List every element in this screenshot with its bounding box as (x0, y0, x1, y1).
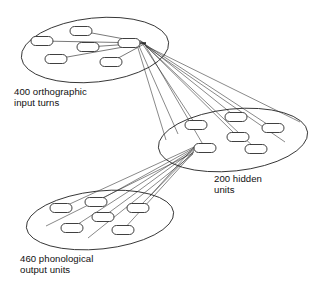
label-orthographic-input-line2: input turns (14, 97, 60, 108)
link-hidden-output (72, 149, 194, 228)
unit-node (127, 204, 149, 213)
unit-node (50, 204, 72, 213)
unit-node (262, 124, 284, 133)
units-hidden (185, 113, 284, 154)
unit-node (245, 145, 267, 154)
label-phonological-output-line1: 460 phonological (20, 253, 93, 264)
unit-node (194, 144, 216, 153)
layer-outlines-group (18, 10, 311, 256)
diagram-canvas: 400 orthographic input turns 200 hidden … (0, 0, 322, 291)
unit-node (61, 224, 83, 233)
network-diagram: 400 orthographic input turns 200 hidden … (0, 0, 322, 291)
unit-node (31, 37, 53, 46)
label-hidden-line2: units (214, 184, 235, 195)
unit-node (92, 213, 114, 222)
unit-node (100, 58, 122, 67)
link-hidden-output (46, 153, 193, 226)
unit-node (118, 39, 140, 48)
link-hidden-output (88, 154, 193, 238)
unit-node (227, 133, 249, 142)
unit-node (70, 27, 92, 36)
connections-group (42, 31, 300, 238)
unit-node (112, 226, 134, 235)
label-hidden-line1: 200 hidden (214, 173, 262, 184)
label-orthographic-input-line1: 400 orthographic (14, 86, 87, 97)
label-phonological-output-line2: output units (20, 264, 70, 275)
units-orthographic-input (31, 27, 140, 67)
unit-node (45, 55, 67, 64)
unit-node (185, 121, 207, 130)
unit-node (77, 43, 99, 52)
link-input-hidden (143, 43, 273, 128)
unit-node (225, 113, 247, 122)
unit-node (85, 198, 107, 207)
